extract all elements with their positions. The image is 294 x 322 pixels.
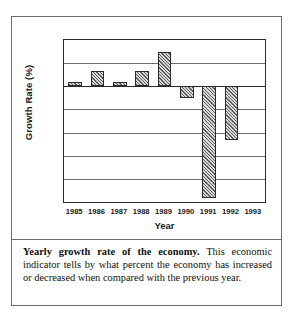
y-minor-tick <box>63 117 64 118</box>
bar-chart: Growth Rate (%) 630-3-6-9-12-15 Year 198… <box>12 17 283 239</box>
y-tick-mark <box>63 132 64 133</box>
y-tick-mark <box>63 202 64 203</box>
figure-card: Growth Rate (%) 630-3-6-9-12-15 Year 198… <box>11 16 282 306</box>
bar-1989 <box>158 52 172 87</box>
y-tick-mark <box>63 155 64 156</box>
x-tick-label: 1989 <box>155 207 172 216</box>
y-minor-tick <box>63 55 64 56</box>
bar-1991 <box>202 86 216 198</box>
bar-1990 <box>180 86 194 98</box>
bar-1992 <box>225 86 239 140</box>
y-tick-mark <box>63 86 64 87</box>
y-tick-mark <box>63 63 64 64</box>
bar-1986 <box>91 71 105 86</box>
y-minor-tick <box>63 78 64 79</box>
y-minor-tick <box>63 70 64 71</box>
x-tick-label: 1993 <box>244 207 261 216</box>
caption-divider <box>12 239 281 240</box>
y-minor-tick <box>63 171 64 172</box>
x-tick-label: 1992 <box>222 207 239 216</box>
x-tick-label: 1991 <box>200 207 217 216</box>
y-tick-mark <box>63 40 64 41</box>
y-minor-tick <box>63 124 64 125</box>
y-minor-tick <box>63 194 64 195</box>
x-tick-label: 1990 <box>177 207 194 216</box>
bar-1987 <box>113 82 127 86</box>
x-tick-label: 1987 <box>110 207 127 216</box>
y-axis-title: Growth Rate (%) <box>23 43 34 163</box>
x-tick-label: 1986 <box>88 207 105 216</box>
y-minor-tick <box>63 163 64 164</box>
x-tick-label: 1988 <box>133 207 150 216</box>
caption-lead: Yearly growth rate of the economy. <box>23 246 200 257</box>
bar-1988 <box>135 71 149 86</box>
y-minor-tick <box>63 47 64 48</box>
y-minor-tick <box>63 140 64 141</box>
y-minor-tick <box>63 148 64 149</box>
y-minor-tick <box>63 186 64 187</box>
x-tick-label: 1985 <box>66 207 83 216</box>
figure-caption: Yearly growth rate of the economy. This … <box>23 245 272 285</box>
plot-area: 630-3-6-9-12-15 <box>63 39 266 203</box>
bar-1985 <box>68 82 82 86</box>
y-minor-tick <box>63 94 64 95</box>
y-tick-mark <box>63 109 64 110</box>
gridline--9 <box>64 156 265 157</box>
y-tick-mark <box>63 178 64 179</box>
y-minor-tick <box>63 101 64 102</box>
gridline--12 <box>64 179 265 180</box>
x-axis-title: Year <box>63 220 266 231</box>
